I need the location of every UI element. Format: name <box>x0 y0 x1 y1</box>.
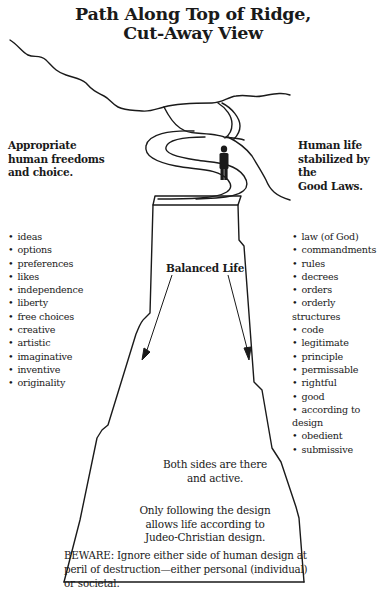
text-line: and active. <box>140 472 290 486</box>
right-heading-line: stabilized by the <box>298 153 386 180</box>
list-item: orderly structures <box>292 296 386 323</box>
column-top-face <box>153 196 241 205</box>
only-following-text: Only following the design allows life ac… <box>120 504 290 545</box>
winding-path-inner-edge <box>166 137 247 199</box>
list-item: commandments <box>292 243 386 256</box>
list-item: submissive <box>292 443 386 456</box>
left-heading-line: and choice. <box>8 166 104 180</box>
text-line: Both sides are there <box>140 458 290 472</box>
list-item: free choices <box>8 310 83 323</box>
list-item: artistic <box>8 336 83 349</box>
list-item: orders <box>292 283 386 296</box>
right-heading-line: Good Laws. <box>298 180 386 194</box>
balanced-life-label: Balanced Life <box>166 262 244 274</box>
text-line: Judeo-Christian design. <box>120 531 290 545</box>
text-line: allows life according to <box>120 518 290 532</box>
list-item: options <box>8 243 83 256</box>
list-item: preferences <box>8 257 83 270</box>
list-item: code <box>292 323 386 336</box>
list-item: likes <box>8 270 83 283</box>
freedoms-list: ideas options preferences likes independ… <box>8 230 83 390</box>
list-item: decrees <box>292 270 386 283</box>
list-item: inventive <box>8 363 83 376</box>
list-item: ideas <box>8 230 83 243</box>
list-item: rightful <box>292 376 386 389</box>
beware-warning-text: BEWARE: Ignore either side of human desi… <box>64 548 314 590</box>
list-item: obedient <box>292 429 386 442</box>
arrow-right-head-icon <box>244 347 251 360</box>
left-heading-line: Appropriate <box>8 139 104 153</box>
arrow-right-shaft <box>228 275 248 352</box>
list-item: permissable <box>292 363 386 376</box>
ridge-horizon-line <box>10 40 290 111</box>
left-heading: Appropriate human freedoms and choice. <box>8 139 104 180</box>
list-item: according to design <box>292 403 386 430</box>
list-item: independence <box>8 283 83 296</box>
text-line: Only following the design <box>120 504 290 518</box>
list-item: legitimate <box>292 336 386 349</box>
laws-list: law (of God) commandments rules decrees … <box>292 230 386 456</box>
list-item: liberty <box>8 296 83 309</box>
list-item: imaginative <box>8 350 83 363</box>
list-item: creative <box>8 323 83 336</box>
arrow-left-head-icon <box>142 348 150 360</box>
list-item: law (of God) <box>292 230 386 243</box>
both-sides-text: Both sides are there and active. <box>140 458 290 485</box>
list-item: principle <box>292 350 386 363</box>
text-line: or societal. <box>64 576 314 590</box>
left-heading-line: human freedoms <box>8 153 104 167</box>
list-item: originality <box>8 376 83 389</box>
right-heading-line: Human life <box>298 139 386 153</box>
list-item: rules <box>292 257 386 270</box>
person-silhouette-icon <box>220 145 229 180</box>
right-heading: Human life stabilized by the Good Laws. <box>298 139 386 193</box>
text-line: peril of destruction—either personal (in… <box>64 562 314 576</box>
right-slope-line <box>228 137 290 200</box>
text-line: BEWARE: Ignore either side of human desi… <box>64 548 314 562</box>
winding-path-outer-edge <box>146 131 231 199</box>
list-item: good <box>292 390 386 403</box>
